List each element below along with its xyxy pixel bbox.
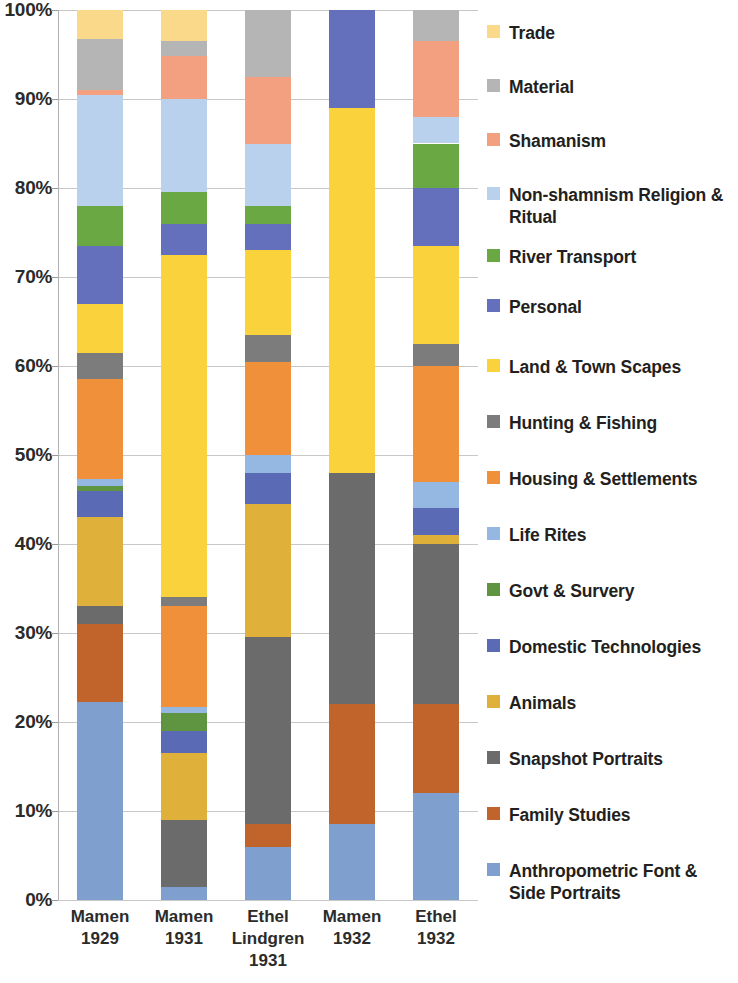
bar-segment[interactable] (245, 455, 291, 473)
x-axis-label: Mamen1929 (61, 906, 139, 950)
bar-segment[interactable] (245, 504, 291, 638)
bar-segment[interactable] (77, 246, 123, 304)
bar-segment[interactable] (413, 188, 459, 246)
legend-item[interactable]: Anthropometric Font & Side Portraits (487, 860, 738, 905)
bar-segment[interactable] (245, 144, 291, 206)
bar-segment[interactable] (77, 606, 123, 624)
bar-segment[interactable] (77, 517, 123, 606)
bar-segment[interactable] (161, 887, 207, 900)
bar-segment[interactable] (245, 637, 291, 824)
bar-segment[interactable] (161, 597, 207, 606)
legend-item[interactable]: Snapshot Portraits (487, 748, 738, 770)
bar-segment[interactable] (77, 479, 123, 486)
legend-item[interactable]: Shamanism (487, 130, 738, 152)
bar-segment[interactable] (161, 41, 207, 56)
legend-item[interactable]: Govt & Survery (487, 580, 738, 602)
bar-segment[interactable] (413, 246, 459, 344)
y-axis-tick (51, 811, 58, 812)
bar-segment[interactable] (413, 117, 459, 144)
bar-segment[interactable] (413, 10, 459, 41)
bar-segment[interactable] (245, 847, 291, 900)
legend-color-swatch-icon (487, 471, 500, 484)
bar-segment[interactable] (245, 206, 291, 224)
legend-item[interactable]: Personal (487, 296, 738, 318)
bar-segment[interactable] (77, 10, 123, 39)
bar-segment[interactable] (329, 824, 375, 900)
bar-segment[interactable] (245, 824, 291, 846)
legend-label: Govt & Survery (509, 580, 634, 602)
bar-segment[interactable] (245, 77, 291, 144)
legend-item[interactable]: Animals (487, 692, 738, 714)
bar-segment[interactable] (77, 491, 123, 518)
legend-item[interactable]: Life Rites (487, 524, 738, 546)
bar-segment[interactable] (245, 224, 291, 251)
legend-item[interactable]: Land & Town Scapes (487, 356, 738, 378)
bar-segment[interactable] (413, 544, 459, 704)
bar-segment[interactable] (77, 90, 123, 94)
chart-legend: TradeMaterialShamanismNon-shamnism Relig… (487, 8, 738, 908)
bar-segment[interactable] (161, 99, 207, 192)
bar-segment[interactable] (245, 335, 291, 362)
x-axis-label-line: Ethel (229, 906, 307, 928)
legend-item[interactable]: Trade (487, 22, 738, 44)
legend-label: Hunting & Fishing (509, 412, 657, 434)
bar-segment[interactable] (329, 704, 375, 824)
bar-segment[interactable] (77, 95, 123, 206)
bar-segment[interactable] (413, 41, 459, 117)
legend-label: Family Studies (509, 804, 630, 826)
bar-segment[interactable] (161, 10, 207, 41)
bar-column[interactable] (329, 10, 375, 900)
bar-segment[interactable] (77, 206, 123, 246)
bar-segment[interactable] (413, 344, 459, 366)
bar-segment[interactable] (413, 366, 459, 482)
bar-segment[interactable] (77, 624, 123, 701)
bar-segment[interactable] (161, 224, 207, 255)
bar-segment[interactable] (161, 192, 207, 223)
legend-color-swatch-icon (487, 187, 500, 200)
bar-segment[interactable] (413, 704, 459, 793)
bar-segment[interactable] (413, 508, 459, 535)
bar-segment[interactable] (413, 144, 459, 189)
bar-column[interactable] (77, 10, 123, 900)
legend-item[interactable]: Domestic Technologies (487, 636, 738, 658)
bar-segment[interactable] (161, 731, 207, 753)
bar-segment[interactable] (245, 250, 291, 335)
bar-segment[interactable] (161, 255, 207, 598)
bar-segment[interactable] (161, 713, 207, 731)
bar-column[interactable] (413, 10, 459, 900)
x-axis-label-line: Mamen (61, 906, 139, 928)
bar-segment[interactable] (77, 304, 123, 353)
bar-column[interactable] (161, 10, 207, 900)
bar-segment[interactable] (77, 39, 123, 90)
bar-segment[interactable] (161, 753, 207, 820)
bar-column[interactable] (245, 10, 291, 900)
bar-segment[interactable] (77, 353, 123, 380)
bar-segment[interactable] (161, 707, 207, 713)
bar-segment[interactable] (161, 606, 207, 707)
bar-segment[interactable] (413, 482, 459, 509)
bar-segment[interactable] (245, 10, 291, 77)
bar-segment[interactable] (77, 379, 123, 479)
bar-segment[interactable] (161, 56, 207, 99)
legend-label: Animals (509, 692, 576, 714)
bar-segment[interactable] (77, 702, 123, 900)
legend-item[interactable]: Housing & Settlements (487, 468, 738, 490)
legend-item[interactable]: Hunting & Fishing (487, 412, 738, 434)
bar-segment[interactable] (329, 10, 375, 108)
legend-item[interactable]: Family Studies (487, 804, 738, 826)
legend-item[interactable]: River Transport (487, 246, 738, 268)
legend-label: Domestic Technologies (509, 636, 701, 658)
bar-segment[interactable] (245, 473, 291, 504)
bar-segment[interactable] (413, 535, 459, 544)
legend-label: Shamanism (509, 130, 606, 152)
legend-item[interactable]: Non-shamnism Religion & Ritual (487, 184, 738, 229)
bar-segment[interactable] (161, 820, 207, 887)
legend-color-swatch-icon (487, 863, 500, 876)
x-axis-label-line: Mamen (313, 906, 391, 928)
legend-item[interactable]: Material (487, 76, 738, 98)
bar-segment[interactable] (245, 362, 291, 455)
bar-segment[interactable] (77, 486, 123, 490)
bar-segment[interactable] (329, 108, 375, 473)
bar-segment[interactable] (413, 793, 459, 900)
bar-segment[interactable] (329, 473, 375, 704)
